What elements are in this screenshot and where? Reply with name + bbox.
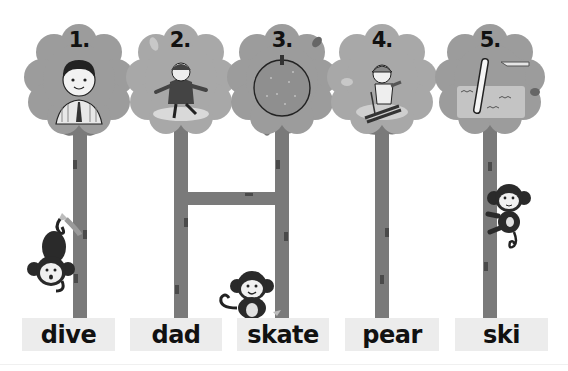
ladder-matching-game: 1. 2. bbox=[0, 0, 568, 371]
tree-number-4: 4. bbox=[362, 28, 402, 52]
word-label-skate[interactable]: skate bbox=[237, 318, 329, 351]
bark-mark bbox=[184, 218, 188, 227]
ladder-rung-2-3[interactable] bbox=[174, 192, 289, 205]
bark-mark bbox=[380, 275, 384, 284]
word-label-dad[interactable]: dad bbox=[130, 318, 222, 351]
word-label-pear[interactable]: pear bbox=[345, 318, 439, 351]
bark-mark bbox=[276, 160, 280, 169]
tree-number-1: 1. bbox=[59, 28, 99, 52]
tree-number-2: 2. bbox=[160, 28, 200, 52]
divider bbox=[0, 364, 568, 365]
bark-mark bbox=[83, 230, 87, 239]
bark-mark bbox=[175, 285, 179, 294]
bark-mark bbox=[73, 160, 77, 169]
bark-mark bbox=[385, 228, 389, 237]
tree-number-3: 3. bbox=[262, 28, 302, 52]
tree-number-5: 5. bbox=[470, 28, 510, 52]
bark-mark bbox=[284, 232, 288, 241]
monkey-sitting-icon bbox=[215, 268, 285, 320]
word-label-dive[interactable]: dive bbox=[22, 318, 115, 351]
bark-mark bbox=[484, 262, 488, 271]
word-label-ski[interactable]: ski bbox=[455, 318, 548, 351]
monkey-climbing-icon bbox=[484, 184, 532, 254]
bark-mark bbox=[245, 193, 253, 196]
bark-mark bbox=[488, 162, 492, 171]
tree-trunk-4 bbox=[375, 118, 389, 318]
monkey-hanging-icon bbox=[22, 205, 82, 295]
